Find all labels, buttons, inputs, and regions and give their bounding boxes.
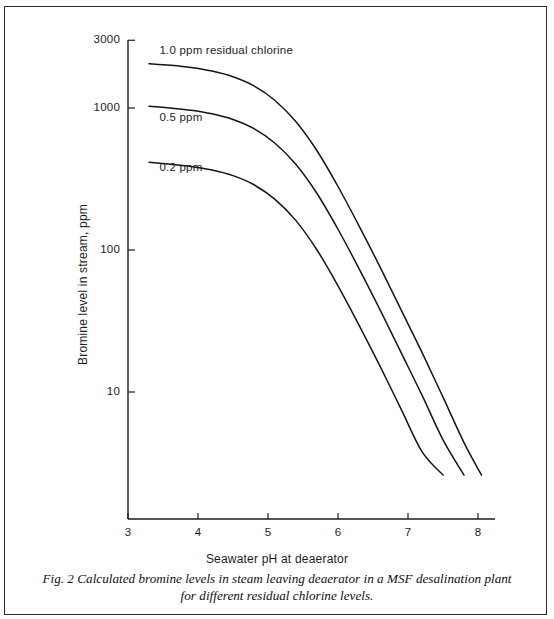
caption-line-1: Fig. 2 Calculated bromine levels in stea… <box>42 571 511 586</box>
figure-page: Bromine level in stream, ppm Seawater pH… <box>0 0 554 619</box>
y-tick-label: 10 <box>62 385 120 397</box>
y-tick-label: 1000 <box>62 101 120 113</box>
series-curve <box>149 64 482 475</box>
chart-figure: Bromine level in stream, ppm Seawater pH… <box>0 0 554 619</box>
series-label: 0.2 ppm <box>160 161 203 173</box>
x-tick-label: 4 <box>178 526 218 538</box>
x-axis-title: Seawater pH at deaerator <box>0 552 554 566</box>
x-tick-label: 6 <box>318 526 358 538</box>
chart-series-curves <box>149 64 482 475</box>
series-label: 0.5 ppm <box>160 111 203 123</box>
y-tick-label: 100 <box>62 243 120 255</box>
x-tick-label: 7 <box>388 526 428 538</box>
x-tick-label: 5 <box>248 526 288 538</box>
y-axis-title: Bromine level in stream, ppm <box>76 204 90 365</box>
y-axis-ticks <box>128 40 135 392</box>
x-tick-label: 8 <box>458 526 498 538</box>
series-curve <box>149 162 443 475</box>
x-axis-ticks <box>128 513 478 519</box>
y-tick-label: 3000 <box>62 33 120 45</box>
x-tick-label: 3 <box>108 526 148 538</box>
figure-caption: Fig. 2 Calculated bromine levels in stea… <box>30 570 524 605</box>
series-label: 1.0 ppm residual chlorine <box>160 44 294 56</box>
caption-line-2: for different residual chlorine levels. <box>181 588 374 603</box>
